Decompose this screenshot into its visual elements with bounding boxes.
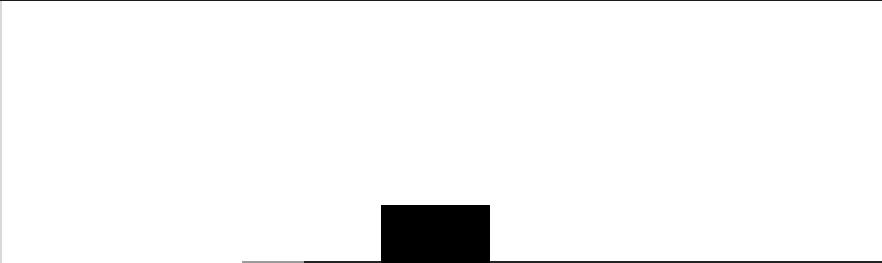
black-block — [381, 205, 490, 263]
